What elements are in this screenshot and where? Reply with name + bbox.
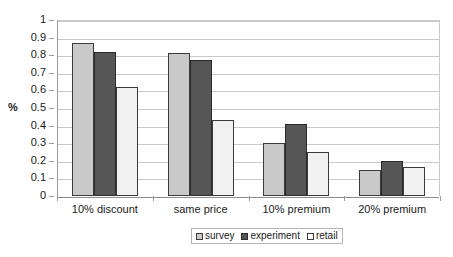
bar-retail[interactable]	[403, 167, 425, 196]
y-tick-mark	[49, 73, 54, 74]
legend-swatch-icon	[196, 233, 203, 240]
bar-group	[57, 20, 153, 196]
y-tick-mark	[49, 178, 54, 179]
y-tick-label: 0.5	[31, 102, 46, 113]
x-category-label: 20% premium	[344, 203, 440, 215]
y-tick-mark	[49, 38, 54, 39]
bar-group	[249, 20, 345, 196]
y-tick-mark	[49, 55, 54, 56]
y-tick-mark	[49, 196, 54, 197]
y-tick-mark	[49, 20, 54, 21]
y-tick-label: 0.8	[31, 49, 46, 60]
legend-label: survey	[205, 231, 234, 241]
bar-survey[interactable]	[168, 53, 190, 196]
bar-group	[153, 20, 249, 196]
y-axis-title: %	[8, 102, 18, 113]
x-category-label: 10% discount	[57, 203, 153, 215]
x-tick-mark	[344, 196, 345, 201]
bar-experiment[interactable]	[190, 60, 212, 196]
y-tick-label: 0	[40, 190, 46, 201]
y-tick-label: 0.2	[31, 155, 46, 166]
y-tick-label: 0.7	[31, 67, 46, 78]
y-tick-mark	[49, 108, 54, 109]
bar-retail[interactable]	[212, 120, 234, 196]
bar-retail[interactable]	[116, 87, 138, 196]
x-tick-mark	[249, 196, 250, 201]
y-tick-label: 0.3	[31, 137, 46, 148]
y-tick-label: 0.1	[31, 172, 46, 183]
y-tick-label: 1	[40, 14, 46, 25]
y-tick-label: 0.9	[31, 32, 46, 43]
x-category-label: same price	[153, 203, 249, 215]
bar-retail[interactable]	[307, 152, 329, 196]
chart-legend: surveyexperimentretail	[191, 228, 343, 244]
legend-swatch-icon	[307, 233, 314, 240]
x-tick-mark	[440, 196, 441, 201]
legend-label: retail	[316, 231, 338, 241]
x-tick-mark	[153, 196, 154, 201]
legend-swatch-icon	[241, 233, 248, 240]
y-tick-mark	[49, 161, 54, 162]
bar-survey[interactable]	[263, 143, 285, 196]
y-tick-mark	[49, 126, 54, 127]
legend-entry-survey[interactable]: survey	[196, 231, 234, 241]
legend-entry-experiment[interactable]: experiment	[241, 231, 299, 241]
y-tick-mark	[49, 143, 54, 144]
bar-experiment[interactable]	[381, 161, 403, 196]
bar-group	[344, 20, 440, 196]
bar-chart: 10.90.80.70.60.50.40.30.20.10 % surveyex…	[0, 0, 453, 257]
y-tick-label: 0.6	[31, 84, 46, 95]
bar-experiment[interactable]	[285, 124, 307, 196]
y-tick-mark	[49, 90, 54, 91]
legend-label: experiment	[250, 231, 299, 241]
bar-survey[interactable]	[359, 170, 381, 196]
bar-survey[interactable]	[72, 43, 94, 196]
legend-entry-retail[interactable]: retail	[307, 231, 338, 241]
x-tick-mark	[57, 196, 58, 201]
bar-experiment[interactable]	[94, 52, 116, 196]
y-tick-label: 0.4	[31, 120, 46, 131]
x-category-label: 10% premium	[249, 203, 345, 215]
